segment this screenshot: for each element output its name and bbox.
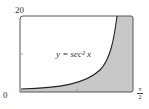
x-max-numerator: π	[138, 86, 141, 92]
x-max-denominator: 2	[139, 94, 142, 100]
curve-label: y = sec² x	[56, 50, 91, 59]
y-axis-max-label: 20	[15, 6, 24, 15]
x-axis-max-label: π 2	[136, 86, 144, 100]
origin-label: 0	[3, 91, 8, 100]
